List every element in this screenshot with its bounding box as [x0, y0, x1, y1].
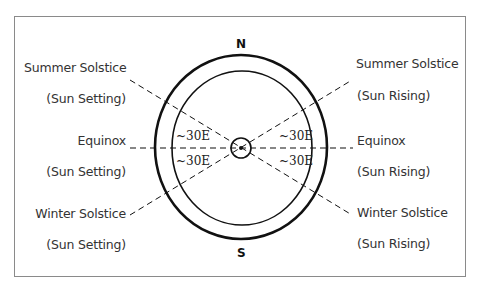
right-summer-title: Summer Solstice — [356, 56, 459, 71]
angle-upper-right: ~30E — [279, 129, 313, 143]
left-summer-subtitle: (Sun Setting) — [24, 91, 126, 106]
left-summer-title: Summer Solstice — [24, 60, 126, 75]
left-equinox-title: Equinox — [24, 133, 126, 148]
right-winter-subtitle: (Sun Rising) — [357, 236, 430, 251]
left-equinox-subtitle: (Sun Setting) — [24, 164, 126, 179]
north-label: N — [236, 37, 246, 51]
angle-lower-left: ~30E — [176, 154, 210, 168]
angle-lower-right: ~30E — [279, 154, 313, 168]
left-winter-title: Winter Solstice — [18, 206, 126, 221]
left-winter-subtitle: (Sun Setting) — [24, 237, 126, 252]
right-summer-subtitle: (Sun Rising) — [357, 88, 430, 103]
angle-upper-left: ~30E — [176, 129, 210, 143]
right-equinox-title: Equinox — [357, 133, 405, 148]
right-winter-title: Winter Solstice — [357, 205, 448, 220]
south-label: S — [237, 246, 246, 260]
right-equinox-subtitle: (Sun Rising) — [357, 164, 430, 179]
